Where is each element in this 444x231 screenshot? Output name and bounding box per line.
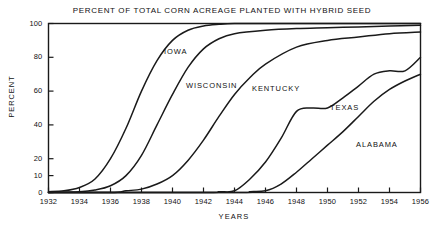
y-tick-label: 20 [13,154,43,163]
series-label-texas: TEXAS [330,103,359,112]
y-tick-label: 80 [13,52,43,61]
y-tick-label: 10 [13,171,43,180]
chart-figure: PERCENT OF TOTAL CORN ACREAGE PLANTED WI… [0,0,444,231]
series-label-alabama: ALABAMA [356,140,398,149]
y-tick-label: 60 [13,86,43,95]
x-tick-label: 1956 [401,197,441,206]
y-tick-label: 40 [13,120,43,129]
y-tick-label: 100 [13,19,43,28]
series-label-kentucky: KENTUCKY [252,84,300,93]
series-label-iowa: IOWA [164,47,187,56]
series-label-wisconsin: WISCONSIN [186,81,237,90]
y-tick-label: 0 [13,188,43,197]
